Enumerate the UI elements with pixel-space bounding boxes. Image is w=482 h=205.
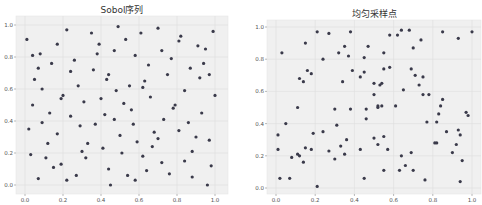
data-point <box>372 93 375 96</box>
data-point <box>96 52 99 55</box>
data-point <box>347 54 350 57</box>
data-point <box>316 185 319 188</box>
data-point <box>84 156 87 159</box>
data-point <box>435 120 438 123</box>
data-point <box>177 129 180 132</box>
data-point <box>321 130 324 133</box>
data-point <box>376 143 379 146</box>
data-point <box>341 80 344 83</box>
y-tick-label: 0.4 <box>4 118 13 124</box>
data-point <box>145 169 148 172</box>
data-point <box>31 54 34 57</box>
data-point <box>408 29 411 32</box>
data-point <box>170 57 173 60</box>
data-point <box>39 52 42 55</box>
data-point <box>75 174 78 177</box>
x-tick-label: 0.2 <box>311 197 320 203</box>
data-point <box>98 43 101 46</box>
x-tick-label: 0.2 <box>59 197 68 203</box>
data-point <box>86 142 89 145</box>
data-point <box>109 183 112 186</box>
data-point <box>160 49 163 52</box>
data-point <box>333 157 336 160</box>
data-point <box>153 131 156 134</box>
data-point <box>73 59 76 62</box>
data-point <box>82 100 85 103</box>
data-point <box>212 30 215 33</box>
scatter-figure: 0.00.20.40.60.81.00.00.20.40.60.81.0 Sob… <box>0 0 482 205</box>
data-point <box>437 112 440 115</box>
data-point <box>365 117 368 120</box>
data-point <box>288 177 291 180</box>
data-point <box>372 82 375 85</box>
data-point <box>310 148 313 151</box>
data-point <box>343 153 346 156</box>
data-point <box>400 29 403 32</box>
data-point <box>69 70 72 73</box>
data-point <box>48 111 51 114</box>
x-tick-label: 1.0 <box>211 197 220 203</box>
data-point <box>363 71 366 74</box>
data-point <box>306 69 309 72</box>
data-point <box>380 82 383 85</box>
data-point <box>134 54 137 57</box>
data-point <box>412 46 415 49</box>
data-point <box>339 145 342 148</box>
data-point <box>302 161 305 164</box>
data-point <box>333 108 336 111</box>
data-point <box>296 106 299 109</box>
data-point <box>461 159 464 162</box>
plot-area <box>16 16 228 194</box>
data-point <box>298 154 301 157</box>
data-point <box>321 58 324 61</box>
data-point <box>206 183 209 186</box>
data-point <box>382 135 385 138</box>
data-point <box>77 84 80 87</box>
data-point <box>208 139 211 142</box>
data-point <box>304 42 307 45</box>
data-point <box>65 179 68 182</box>
data-point <box>166 73 169 76</box>
data-point <box>284 122 287 125</box>
x-tick-label: 0.6 <box>135 197 144 203</box>
data-point <box>425 120 428 123</box>
data-point <box>298 77 301 80</box>
data-point <box>441 98 444 101</box>
data-point <box>52 166 55 169</box>
y-tick-label: 0.2 <box>4 150 13 156</box>
data-point <box>465 111 468 114</box>
data-point <box>210 164 213 167</box>
data-point <box>418 83 421 86</box>
data-point <box>99 97 102 100</box>
data-point <box>101 147 104 150</box>
data-point <box>421 93 424 96</box>
data-point <box>156 27 159 30</box>
data-point <box>56 43 59 46</box>
data-point <box>467 114 470 117</box>
data-point <box>470 30 473 33</box>
data-point <box>276 133 279 136</box>
data-point <box>90 31 93 34</box>
data-point <box>388 66 391 69</box>
data-point <box>60 163 63 166</box>
data-point <box>351 69 354 72</box>
data-point <box>280 51 283 54</box>
data-point <box>113 49 116 52</box>
data-point <box>132 123 135 126</box>
data-point <box>187 121 190 124</box>
data-point <box>33 78 36 81</box>
data-point <box>459 180 462 183</box>
data-point <box>382 67 385 70</box>
data-point <box>179 35 182 38</box>
data-point <box>435 141 438 144</box>
data-point <box>345 138 348 141</box>
data-point <box>372 137 375 140</box>
y-tick-label: 0.6 <box>4 86 13 92</box>
data-point <box>386 148 389 151</box>
data-point <box>117 25 120 28</box>
x-tick-label: 0.4 <box>350 197 359 203</box>
data-point <box>276 148 279 151</box>
data-point <box>183 89 186 92</box>
data-point <box>107 73 110 76</box>
y-tick-label: 0.6 <box>255 88 264 94</box>
